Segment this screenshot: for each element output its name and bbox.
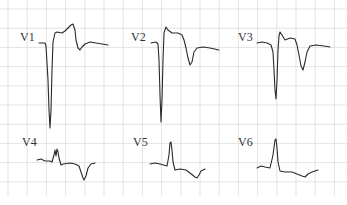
lead-label-v4: V4 — [22, 135, 37, 149]
ecg-trace-v5 — [150, 142, 205, 178]
lead-label-v5: V5 — [133, 135, 148, 149]
lead-v6: V6 — [238, 135, 318, 177]
lead-label-v6: V6 — [238, 135, 253, 149]
ecg-grid — [0, 0, 347, 196]
lead-v2: V2 — [131, 27, 219, 122]
ecg-trace-v6 — [257, 139, 318, 177]
lead-v4: V4 — [22, 135, 95, 180]
ecg-trace-v2 — [151, 27, 219, 122]
ecg-trace-v3 — [257, 32, 330, 99]
lead-v3: V3 — [238, 30, 330, 99]
lead-label-v2: V2 — [131, 30, 146, 44]
lead-v5: V5 — [133, 135, 205, 178]
lead-label-v1: V1 — [20, 30, 35, 44]
ecg-trace-v1 — [39, 24, 108, 128]
lead-label-v3: V3 — [238, 30, 253, 44]
lead-v1: V1 — [20, 24, 108, 128]
ecg-figure: V1 V2 V3 V4 V5 V6 — [0, 0, 347, 205]
